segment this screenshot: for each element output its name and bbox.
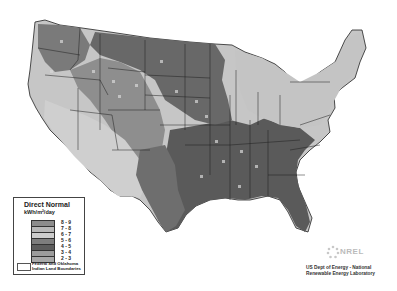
sun-icon xyxy=(326,245,340,259)
legend-title: Direct Normal xyxy=(24,201,70,208)
land-boundary-swatch xyxy=(17,263,31,271)
legend-units: kWh/m²/day xyxy=(24,209,55,215)
region-northeast xyxy=(235,32,364,128)
nrel-logo-text: NREL xyxy=(340,247,364,256)
nrel-logo: NREL xyxy=(326,245,376,259)
land-boundary-label: Federal and Oklahoma Indian Land Boundar… xyxy=(32,261,84,271)
map-legend: Direct Normal kWh/m²/day 8 - 9 7 - 8 6 -… xyxy=(13,197,85,275)
credit-line-2: Renewable Energy Laboratory xyxy=(306,271,375,277)
map-credit: US Dept of Energy - National Renewable E… xyxy=(306,265,375,277)
